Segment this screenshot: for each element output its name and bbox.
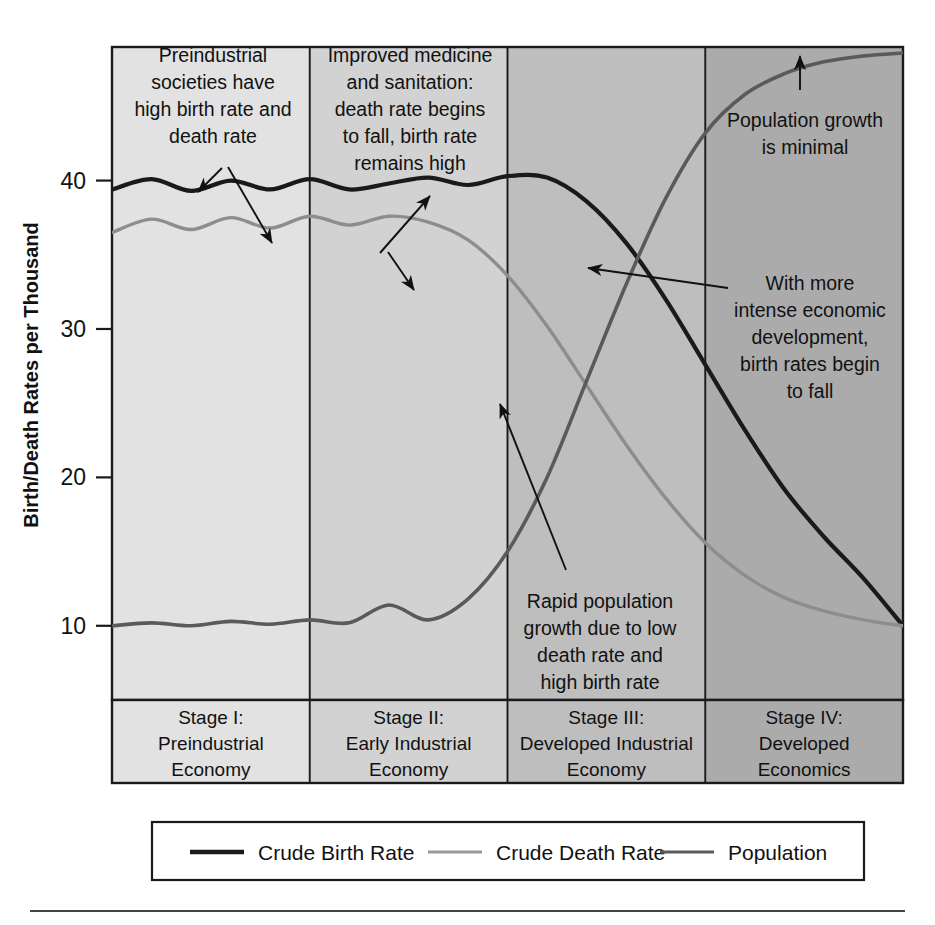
stage-label-IV: Stage IV:DevelopedEconomics	[758, 707, 851, 780]
annotation-line: Preindustrial	[159, 44, 267, 66]
annotation-line: is minimal	[762, 136, 849, 158]
annotation-line: death rate begins	[335, 98, 486, 120]
stage-label-line: Stage III:	[568, 707, 644, 728]
y-tick-label-30: 30	[60, 316, 86, 342]
y-tick-label-10: 10	[60, 613, 86, 639]
annotation-line: Rapid population	[527, 590, 673, 612]
annotation-line: high birth rate	[540, 671, 659, 693]
stage-label-line: Economy	[171, 759, 251, 780]
legend-label: Population	[728, 841, 827, 864]
annotation-line: and sanitation:	[347, 71, 474, 93]
annotation-line: growth due to low	[524, 617, 678, 639]
stage-label-line: Economy	[369, 759, 449, 780]
chart-canvas: 10203040 Birth/Death Rates per Thousand …	[0, 0, 935, 925]
demographic-transition-figure: 10203040 Birth/Death Rates per Thousand …	[0, 0, 935, 925]
legend-label: Crude Death Rate	[496, 841, 665, 864]
annotation-line: Population growth	[727, 109, 883, 131]
annotation-line: Improved medicine	[328, 44, 493, 66]
stage-label-line: Early Industrial	[346, 733, 472, 754]
y-tick-label-20: 20	[60, 464, 86, 490]
stage-label-line: Stage I:	[178, 707, 244, 728]
annotation-line: With more	[766, 272, 855, 294]
stage-label-line: Economy	[567, 759, 647, 780]
annotation-line: death rate and	[537, 644, 663, 666]
annotation-line: societies have	[151, 71, 275, 93]
annotation-line: to fall	[787, 380, 834, 402]
annotation-line: intense economic	[734, 299, 886, 321]
stage-label-band: Stage I:PreindustrialEconomyStage II:Ear…	[112, 700, 903, 783]
annotation-line: birth rates begin	[740, 353, 880, 375]
stage-label-line: Developed Industrial	[520, 733, 693, 754]
y-tick-label-40: 40	[60, 168, 86, 194]
annotation-line: death rate	[169, 125, 257, 147]
stage-label-line: Economics	[758, 759, 851, 780]
annotation-line: to fall, birth rate	[343, 125, 477, 147]
y-axis-title: Birth/Death Rates per Thousand	[20, 222, 42, 528]
annotation-line: high birth rate and	[134, 98, 291, 120]
stage-label-line: Stage II:	[373, 707, 444, 728]
annotation-line: remains high	[354, 152, 466, 174]
annotation-line: development,	[751, 326, 868, 348]
stage-label-line: Stage IV:	[765, 707, 842, 728]
legend: Crude Birth RateCrude Death RatePopulati…	[152, 822, 864, 880]
legend-label: Crude Birth Rate	[258, 841, 414, 864]
stage-label-line: Developed	[759, 733, 850, 754]
stage-label-line: Preindustrial	[158, 733, 264, 754]
